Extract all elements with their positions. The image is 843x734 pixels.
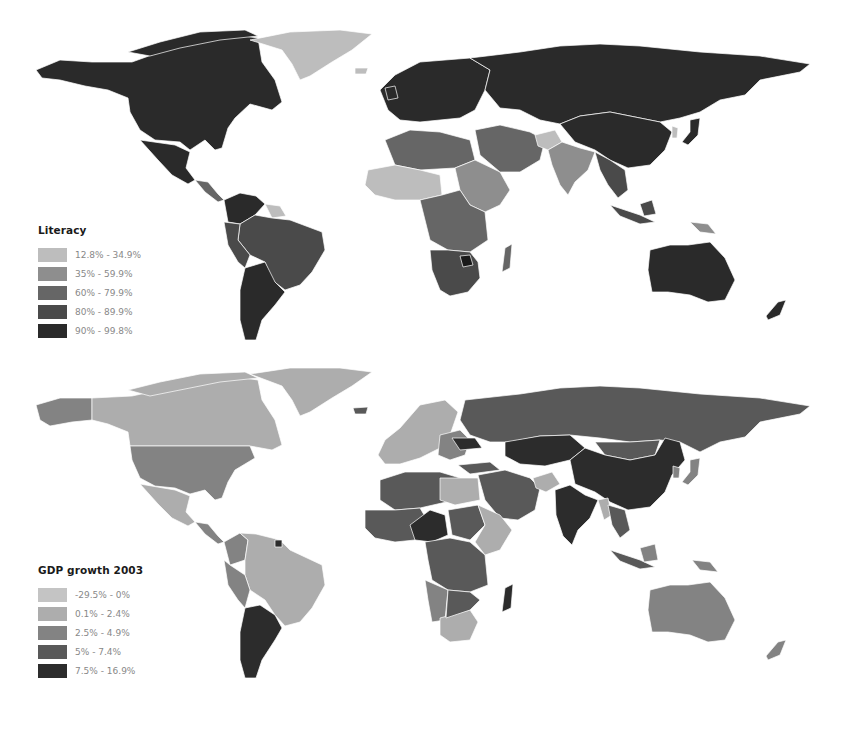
region-guianas — [265, 204, 286, 218]
region-central-america — [195, 522, 224, 544]
gdp-legend: GDP growth 2003 -29.5% - 0% 0.1% - 2.4% … — [38, 564, 143, 680]
region-southeast-asia — [608, 505, 630, 538]
legend-item: 5% - 7.4% — [38, 642, 143, 661]
region-new-zealand — [766, 300, 786, 320]
legend-swatch — [38, 626, 67, 640]
legend-swatch — [38, 305, 67, 319]
region-sahel — [365, 165, 442, 200]
region-borneo — [640, 544, 658, 562]
region-russia-central-asia — [470, 44, 810, 124]
legend-swatch — [38, 588, 67, 602]
region-central-america — [195, 180, 224, 202]
legend-label: 7.5% - 16.9% — [75, 666, 135, 676]
legend-label: 2.5% - 4.9% — [75, 628, 130, 638]
legend-swatch — [38, 267, 67, 281]
legend-label: 5% - 7.4% — [75, 647, 121, 657]
region-japan — [682, 458, 700, 485]
legend-swatch — [38, 324, 67, 338]
region-india — [555, 485, 598, 545]
region-korea — [672, 126, 678, 138]
legend-label: 12.8% - 34.9% — [75, 250, 141, 260]
legend-label: -29.5% - 0% — [75, 590, 130, 600]
region-madagascar — [502, 584, 513, 612]
region-australia — [648, 242, 735, 302]
literacy-legend-title: Literacy — [38, 224, 141, 236]
region-madagascar — [502, 244, 512, 272]
legend-label: 0.1% - 2.4% — [75, 609, 130, 619]
legend-item: 60% - 79.9% — [38, 283, 141, 302]
region-iceland — [355, 68, 368, 74]
region-suriname — [275, 540, 282, 547]
legend-swatch — [38, 664, 67, 678]
region-libya-egypt — [440, 478, 480, 505]
legend-label: 80% - 89.9% — [75, 307, 133, 317]
region-korea — [673, 466, 680, 478]
region-colombia — [224, 533, 248, 565]
region-japan — [682, 118, 700, 145]
gdp-legend-title: GDP growth 2003 — [38, 564, 143, 576]
legend-item: 90% - 99.8% — [38, 321, 141, 340]
region-europe — [380, 58, 490, 122]
legend-item: -29.5% - 0% — [38, 585, 143, 604]
legend-item: 7.5% - 16.9% — [38, 661, 143, 680]
legend-label: 60% - 79.9% — [75, 288, 133, 298]
literacy-map: Literacy 12.8% - 34.9% 35% - 59.9% 60% -… — [0, 0, 843, 360]
region-papua — [690, 222, 716, 234]
legend-swatch — [38, 248, 67, 262]
legend-swatch — [38, 286, 67, 300]
region-southern-africa — [430, 250, 480, 296]
region-north-africa — [385, 130, 475, 170]
legend-item: 12.8% - 34.9% — [38, 245, 141, 264]
legend-item: 2.5% - 4.9% — [38, 623, 143, 642]
legend-swatch — [38, 607, 67, 621]
gdp-growth-map: GDP growth 2003 -29.5% - 0% 0.1% - 2.4% … — [0, 360, 843, 734]
literacy-legend: Literacy 12.8% - 34.9% 35% - 59.9% 60% -… — [38, 224, 141, 340]
region-alaska — [36, 398, 92, 426]
legend-label: 90% - 99.8% — [75, 326, 133, 336]
legend-label: 35% - 59.9% — [75, 269, 133, 279]
region-papua — [692, 560, 718, 572]
region-argentina — [240, 605, 282, 678]
legend-item: 35% - 59.9% — [38, 264, 141, 283]
legend-swatch — [38, 645, 67, 659]
legend-item: 0.1% - 2.4% — [38, 604, 143, 623]
region-south-asia — [548, 142, 595, 195]
region-new-zealand — [766, 640, 786, 660]
region-borneo — [640, 200, 656, 216]
region-australia — [648, 582, 735, 642]
region-iceland — [353, 407, 368, 414]
legend-item: 80% - 89.9% — [38, 302, 141, 321]
